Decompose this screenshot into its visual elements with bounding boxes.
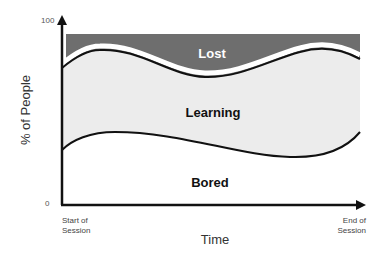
chart: 100 0 Lost Learning Bored % of People Ti… bbox=[0, 0, 384, 262]
x-axis-arrow-icon bbox=[356, 200, 366, 210]
y-tick-0: 0 bbox=[45, 199, 50, 208]
learning-label: Learning bbox=[186, 105, 241, 120]
bored-label: Bored bbox=[191, 175, 229, 190]
x-start-label-line2: Session bbox=[62, 226, 90, 235]
x-end-label-line2: Session bbox=[338, 226, 366, 235]
x-start-label-line1: Start of bbox=[62, 216, 89, 225]
y-axis-title: % of People bbox=[18, 75, 33, 145]
lost-label: Lost bbox=[198, 46, 226, 61]
x-axis-title: Time bbox=[201, 232, 229, 247]
y-tick-100: 100 bbox=[41, 16, 55, 25]
x-end-label-line1: End of bbox=[343, 216, 367, 225]
y-axis-arrow-icon bbox=[57, 15, 67, 25]
